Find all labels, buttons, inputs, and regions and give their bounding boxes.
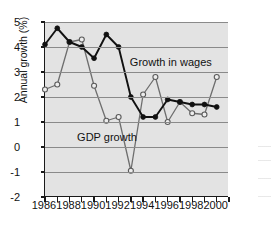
y-tick-mark [41, 96, 45, 97]
gridline [45, 97, 228, 98]
data-point-marker [55, 26, 60, 31]
page-edge-artifact [258, 140, 271, 215]
data-point-marker [104, 32, 109, 37]
y-tick-label: 4 [0, 42, 20, 53]
y-tick-label: -2 [0, 192, 20, 203]
data-point-marker [202, 102, 207, 107]
data-point-marker [202, 112, 207, 117]
data-point-marker [116, 115, 121, 120]
y-tick-mark [41, 121, 45, 122]
y-tick-mark [41, 21, 45, 22]
gridline [45, 72, 228, 73]
data-point-marker [214, 75, 219, 80]
y-tick-mark [41, 146, 45, 147]
data-point-marker [67, 40, 72, 45]
y-tick-label: -1 [0, 167, 20, 178]
annotation-growth-in-wages: Growth in wages [130, 57, 212, 68]
y-tick-mark [41, 46, 45, 47]
y-tick-label: 5 [0, 17, 20, 28]
data-point-marker [214, 105, 219, 110]
data-point-marker [92, 83, 97, 88]
data-point-marker [92, 56, 97, 61]
data-point-marker [190, 111, 195, 116]
data-point-marker [153, 75, 158, 80]
x-tick-label: 2000 [196, 200, 236, 211]
gridline [45, 47, 228, 48]
data-point-marker [141, 115, 146, 120]
data-point-marker [43, 87, 48, 92]
y-tick-label: 1 [0, 117, 20, 128]
annotation-gdp-growth: GDP growth [77, 132, 137, 143]
gridline [45, 22, 228, 23]
gridline [45, 172, 228, 173]
data-point-marker [55, 82, 60, 87]
gridline [45, 147, 228, 148]
data-point-marker [165, 97, 170, 102]
gridline [45, 122, 228, 123]
growth-line-chart: Annual growth (%) Growth in wages GDP gr… [0, 0, 271, 240]
y-tick-label: 3 [0, 67, 20, 78]
y-tick-label: 2 [0, 92, 20, 103]
y-tick-label: 0 [0, 142, 20, 153]
data-point-marker [79, 37, 84, 42]
data-point-marker [153, 115, 158, 120]
y-tick-mark [41, 171, 45, 172]
y-tick-mark [41, 71, 45, 72]
data-point-marker [190, 102, 195, 107]
data-point-marker [178, 100, 183, 105]
plot-area [44, 22, 228, 197]
